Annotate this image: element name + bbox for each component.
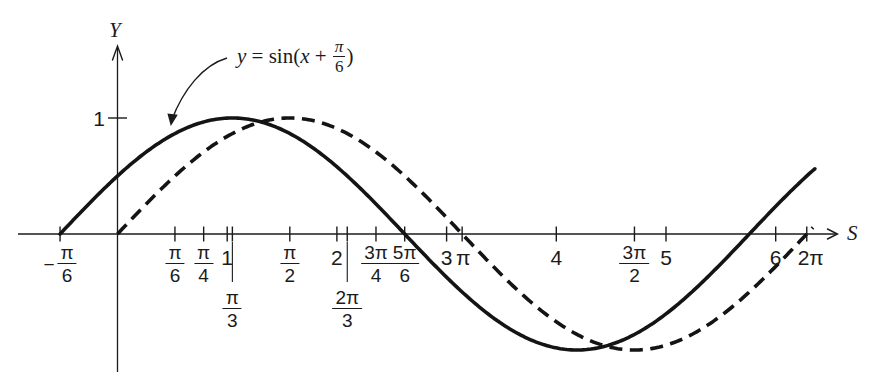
- equation-equals: =: [246, 44, 268, 69]
- x-tick-label: 2: [331, 247, 343, 268]
- x-tick-label: −π6: [43, 243, 76, 285]
- x-tick-label: 5: [660, 247, 672, 268]
- equation-fraction-numerator: π: [333, 38, 346, 57]
- minus-sign: −: [43, 255, 54, 274]
- equation-fraction: π6: [333, 38, 346, 75]
- equation-plus: +: [310, 44, 332, 69]
- x-tick-label: π4: [194, 243, 213, 285]
- equation-func: sin: [269, 44, 294, 69]
- x-tick-label: 6: [770, 247, 782, 268]
- plot-canvas: [0, 0, 877, 387]
- x-tick-label: π6: [165, 243, 184, 285]
- x-tick-label: 3: [441, 247, 453, 268]
- y-axis-label: Y: [109, 20, 121, 41]
- annotation-arrowhead-icon: [167, 113, 177, 126]
- x-tick-label: 3π2: [620, 243, 650, 285]
- x-axis-label: S: [847, 223, 858, 244]
- y-tick-label: 1: [93, 108, 105, 129]
- curve-equation-label: y = sin(x + π6): [237, 38, 353, 75]
- equation-fraction-denominator: 6: [335, 57, 344, 75]
- x-tick-label: π3: [223, 288, 242, 330]
- x-tick-label: 3π4: [361, 243, 391, 285]
- equation-lhs: y: [237, 44, 246, 69]
- sine-graph-figure: −π6π6π41π3π222π33π45π63π43π2562π1 Y S y …: [0, 0, 877, 387]
- equation-arg: x: [300, 44, 309, 69]
- x-tick-label: π: [456, 247, 471, 268]
- annotation-arrow: [172, 58, 227, 120]
- x-tick-label: 5π6: [390, 243, 420, 285]
- x-tick-label: 1: [221, 247, 233, 268]
- x-tick-label: 4: [550, 247, 562, 268]
- equation-close-paren: ): [346, 44, 353, 69]
- x-tick-label: 2π: [798, 247, 824, 268]
- x-tick-label: π2: [280, 243, 299, 285]
- x-tick-label: 2π3: [332, 288, 362, 330]
